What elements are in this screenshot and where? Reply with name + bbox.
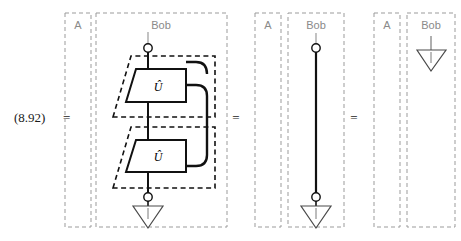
alice-region-label-right: A (383, 19, 391, 31)
alice-region-label-left: A (74, 19, 82, 31)
input-connector-dot-left (144, 44, 152, 52)
input-connector-dot-middle (312, 44, 320, 52)
panel-middle: A Bob (255, 13, 344, 228)
output-connector-dot-left (144, 193, 152, 201)
equation-number: (8.92) (14, 110, 45, 125)
bob-region-label-left: Bob (151, 19, 171, 31)
feedback-loop-wire (186, 85, 207, 166)
output-connector-dot-middle (312, 193, 320, 201)
equals-sign-0: = (63, 110, 70, 125)
equation-figure: (8.92) = A Bob Û Û (0, 0, 461, 241)
equals-sign-1: = (232, 110, 239, 125)
alice-region-right (374, 13, 400, 227)
alice-region-middle (255, 13, 281, 227)
unitary-gate-lower-label: Û (154, 150, 164, 164)
feedback-loop-top-hook (186, 62, 207, 74)
panel-right: A Bob (374, 13, 455, 227)
alice-region-label-middle: A (264, 19, 272, 31)
bob-region-label-middle: Bob (306, 19, 326, 31)
equals-sign-2: = (350, 110, 357, 125)
unitary-gate-upper-label: Û (154, 80, 164, 94)
panel-left: A Bob Û Û (65, 13, 227, 228)
bob-region-label-right: Bob (421, 19, 441, 31)
